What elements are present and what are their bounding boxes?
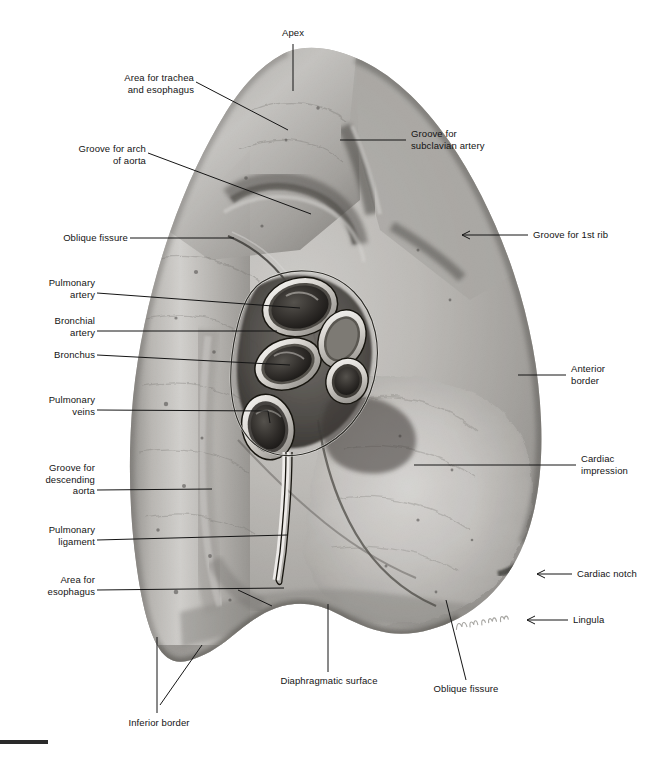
label-lingula: Lingula — [573, 614, 643, 626]
label-cardiac-notch: Cardiac notch — [577, 568, 659, 580]
label-apex: Apex — [263, 27, 323, 39]
artist-signature — [455, 615, 508, 630]
label-groove-first-rib: Groove for 1st rib — [533, 229, 653, 241]
label-pulmonary-veins: Pulmonary veins — [18, 394, 95, 417]
label-inferior-border: Inferior border — [110, 717, 208, 729]
lung-illustration — [0, 0, 659, 759]
label-groove-arch-aorta: Groove for arch of aorta — [36, 143, 146, 166]
label-oblique-fissure-upper: Oblique fissure — [28, 232, 128, 244]
label-groove-subclavian-artery: Groove for subclavian artery — [411, 128, 541, 151]
label-area-esophagus: Area for esophagus — [18, 574, 95, 597]
label-bronchial-artery: Bronchial artery — [18, 315, 95, 338]
label-diaphragmatic-surface: Diaphragmatic surface — [268, 675, 390, 687]
label-cardiac-impression: Cardiac impression — [581, 453, 659, 476]
label-anterior-border: Anterior border — [571, 363, 651, 386]
scale-bar — [0, 740, 48, 744]
label-area-trachea-esophagus: Area for trachea and esophagus — [60, 72, 194, 95]
label-bronchus: Bronchus — [18, 349, 95, 361]
label-pulmonary-ligament: Pulmonary ligament — [18, 524, 95, 547]
label-groove-descending-aorta: Groove for descending aorta — [18, 462, 95, 497]
label-oblique-fissure-lower: Oblique fissure — [416, 683, 516, 695]
label-pulmonary-artery: Pulmonary artery — [18, 277, 95, 300]
